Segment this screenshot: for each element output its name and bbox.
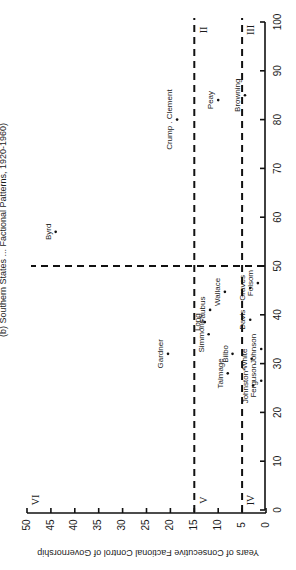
chart-title-text: (b) Southern States ... Factional Patter… — [0, 123, 8, 337]
y-tick-label: 15 — [188, 519, 199, 531]
point-label: Browning — [233, 79, 242, 112]
point-label: Wallace — [213, 277, 222, 306]
point-label: White — [240, 348, 249, 369]
x-tick-label: 60 — [272, 211, 283, 223]
y-tick-label: 45 — [45, 519, 56, 531]
point-label: Davis — [238, 310, 247, 330]
point-label: Folsom — [246, 270, 255, 297]
x-tick-label: 0 — [272, 507, 283, 513]
chart-title: (b) Southern States ... Factional Patter… — [0, 123, 8, 337]
y-tick-label: 5 — [236, 522, 247, 528]
point-label: Gardner — [156, 339, 165, 369]
data-points: ByrdGardnerCrump . ClementPeayBrowningLo… — [44, 79, 263, 404]
data-point — [226, 372, 229, 375]
point-label: Peay — [206, 91, 215, 109]
y-tick-label: 25 — [140, 519, 151, 531]
data-point — [217, 99, 220, 102]
zone-label: III — [245, 25, 256, 35]
zone-label: IV — [245, 494, 256, 505]
data-point — [249, 318, 252, 321]
data-point — [260, 348, 263, 351]
data-point — [231, 353, 234, 356]
reference-lines — [31, 18, 264, 512]
data-point — [224, 291, 227, 294]
y-tick-label: 0 — [260, 522, 271, 528]
x-tick-label: 20 — [272, 406, 283, 418]
data-point — [257, 282, 260, 285]
y-tick-label: 10 — [212, 519, 223, 531]
data-point — [54, 231, 57, 234]
x-tick-label: 100 — [272, 13, 283, 30]
data-point — [244, 94, 247, 97]
x-tick-label: 50 — [272, 260, 283, 272]
zone-label: VI — [30, 495, 41, 506]
point-label: Faubus — [198, 297, 207, 324]
x-tick-label: 80 — [272, 114, 283, 126]
y-tick-label: 30 — [116, 519, 127, 531]
data-point — [207, 333, 210, 336]
factional-control-chart: (b) Southern States ... Factional Patter… — [0, 0, 296, 570]
x-tick-label: 30 — [272, 358, 283, 370]
point-label: Ferguson — [249, 364, 258, 398]
point-label: Bilbo — [221, 344, 230, 362]
point-label: Crump . Clement — [165, 89, 174, 150]
zone-label: V — [198, 496, 209, 504]
y-tick-label: 50 — [21, 519, 32, 531]
point-label: Johnson — [249, 334, 258, 364]
point-label: Byrd — [44, 224, 53, 240]
axes: 0102030405060708090100051015202530354045… — [21, 13, 283, 530]
y-tick-label: 35 — [92, 519, 103, 531]
data-point — [176, 118, 179, 121]
y-axis-title-text: Years of Consecutive Factional Control o… — [37, 548, 259, 558]
y-axis-title: Years of Consecutive Factional Control o… — [37, 548, 259, 558]
data-point — [209, 309, 212, 312]
x-tick-label: 10 — [272, 455, 283, 467]
x-tick-label: 90 — [272, 65, 283, 77]
zone-label: II — [198, 27, 209, 34]
y-tick-label: 20 — [164, 519, 175, 531]
data-point — [167, 353, 170, 356]
x-tick-label: 70 — [272, 162, 283, 174]
x-tick-label: 40 — [272, 309, 283, 321]
data-point — [260, 379, 263, 382]
y-tick-label: 40 — [68, 519, 79, 531]
